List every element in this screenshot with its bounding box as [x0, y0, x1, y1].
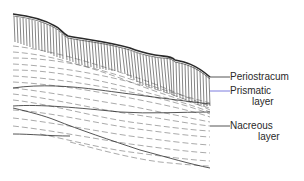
nacreous-label: Nacreous layer — [230, 121, 280, 142]
periostracum-label: Periostracum — [230, 72, 289, 82]
prismatic-label: Prismatic layer — [230, 86, 274, 107]
